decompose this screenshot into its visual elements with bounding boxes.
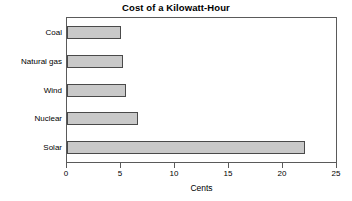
tick-mark <box>282 163 283 168</box>
bar-rect <box>67 141 305 154</box>
tick-mark <box>336 163 337 168</box>
x-axis-ticks: 0510152025 <box>66 163 338 201</box>
category-label-solar: Solar <box>0 143 62 152</box>
chart-title: Cost of a Kilowatt-Hour <box>0 2 352 13</box>
tick-mark <box>120 163 121 168</box>
tick-mark <box>228 163 229 168</box>
category-label-natural-gas: Natural gas <box>0 57 62 66</box>
tick-label: 10 <box>162 169 186 178</box>
tick-label: 15 <box>216 169 240 178</box>
tick-label: 5 <box>108 169 132 178</box>
bar-rect <box>67 112 138 125</box>
x-axis-label: Cents <box>66 183 337 193</box>
category-label-coal: Coal <box>0 28 62 37</box>
category-label-nuclear: Nuclear <box>0 114 62 123</box>
tick-label: 0 <box>54 169 78 178</box>
y-axis-category-labels: CoalNatural gasWindNuclearSolar <box>0 18 66 162</box>
category-label-wind: Wind <box>0 86 62 95</box>
tick-mark <box>66 163 67 168</box>
bar-chart: Cost of a Kilowatt-Hour CoalNatural gasW… <box>0 0 352 201</box>
bar-rect <box>67 84 126 97</box>
tick-label: 20 <box>270 169 294 178</box>
tick-mark <box>174 163 175 168</box>
bar-rect <box>67 26 121 39</box>
bars-layer <box>67 18 337 162</box>
tick-label: 25 <box>324 169 348 178</box>
bar-rect <box>67 55 123 68</box>
